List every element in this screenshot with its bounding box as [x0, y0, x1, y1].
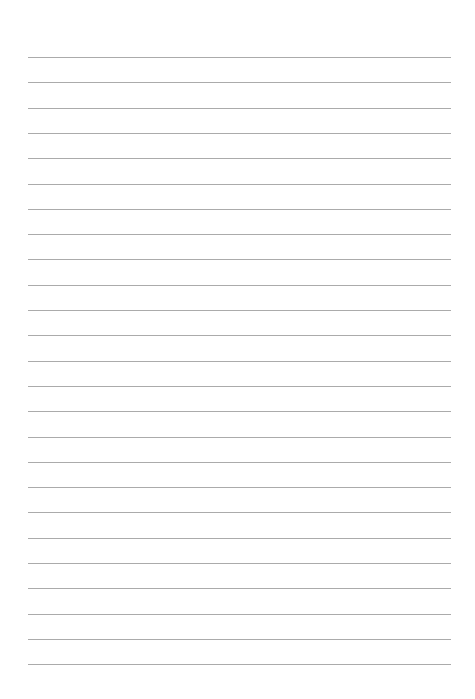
ruled-line: [28, 184, 451, 185]
ruled-line: [28, 57, 451, 58]
ruled-line: [28, 158, 451, 159]
ruled-line: [28, 310, 451, 311]
ruled-line: [28, 133, 451, 134]
lined-paper-page: [0, 0, 475, 699]
ruled-line: [28, 234, 451, 235]
ruled-line: [28, 361, 451, 362]
ruled-line: [28, 209, 451, 210]
ruled-line: [28, 588, 451, 589]
ruled-line: [28, 108, 451, 109]
ruled-line: [28, 335, 451, 336]
ruled-line: [28, 614, 451, 615]
ruled-line: [28, 386, 451, 387]
ruled-line: [28, 82, 451, 83]
ruled-line: [28, 664, 451, 665]
ruled-line: [28, 487, 451, 488]
ruled-line: [28, 512, 451, 513]
ruled-line: [28, 538, 451, 539]
ruled-line: [28, 462, 451, 463]
ruled-line: [28, 285, 451, 286]
ruled-line: [28, 639, 451, 640]
ruled-line: [28, 437, 451, 438]
ruled-line: [28, 259, 451, 260]
ruled-line: [28, 563, 451, 564]
ruled-line: [28, 411, 451, 412]
